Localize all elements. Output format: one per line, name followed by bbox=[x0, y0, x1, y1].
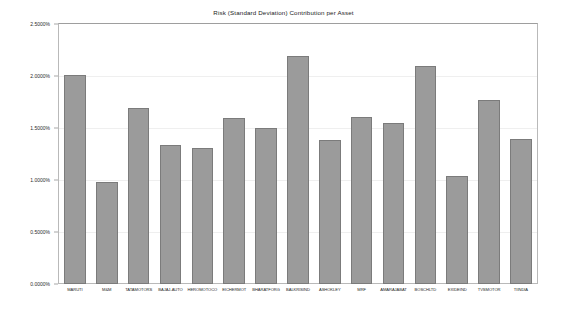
bar-slot bbox=[155, 24, 187, 284]
bar[interactable] bbox=[96, 182, 118, 284]
x-axis: MARUTIM&MTATAMOTORSBAJAJ-AUTOHEROMOTOCOE… bbox=[59, 287, 537, 303]
bar-slot bbox=[505, 24, 537, 284]
bar[interactable] bbox=[415, 66, 437, 284]
bar-slot bbox=[378, 24, 410, 284]
x-axis-tick-label: TIINDIA bbox=[505, 287, 537, 303]
chart-title: Risk (Standard Deviation) Contribution p… bbox=[0, 9, 567, 16]
bar[interactable] bbox=[192, 148, 214, 284]
bar[interactable] bbox=[351, 117, 373, 284]
bar[interactable] bbox=[223, 118, 245, 284]
bar-slot bbox=[473, 24, 505, 284]
bar[interactable] bbox=[160, 145, 182, 284]
bar-slot bbox=[346, 24, 378, 284]
x-axis-tick-label: TVSMOTOR bbox=[473, 287, 505, 303]
bar-slot bbox=[186, 24, 218, 284]
bar[interactable] bbox=[510, 139, 532, 284]
bar-slot bbox=[91, 24, 123, 284]
bar-slot bbox=[250, 24, 282, 284]
bar[interactable] bbox=[128, 108, 150, 284]
y-axis-tick-label: 2.5000% bbox=[30, 21, 50, 27]
bar[interactable] bbox=[64, 75, 86, 284]
bar[interactable] bbox=[319, 140, 341, 284]
x-axis-tick-label: TATAMOTORS bbox=[123, 287, 155, 303]
bar-slot bbox=[282, 24, 314, 284]
x-axis-tick-label: MARUTI bbox=[59, 287, 91, 303]
plot-area bbox=[59, 24, 537, 284]
y-axis-tick-label: 0.0000% bbox=[30, 281, 50, 287]
bar[interactable] bbox=[383, 123, 405, 284]
y-axis-tick-label: 1.0000% bbox=[30, 177, 50, 183]
x-axis-tick-label: AMARAJABAT bbox=[378, 287, 410, 303]
bar-slot bbox=[441, 24, 473, 284]
bar-slot bbox=[59, 24, 91, 284]
bar[interactable] bbox=[287, 56, 309, 284]
chart-container: Risk (Standard Deviation) Contribution p… bbox=[0, 0, 567, 317]
x-axis-tick-label: BOSCHLTD bbox=[409, 287, 441, 303]
bar[interactable] bbox=[478, 100, 500, 284]
y-axis-tick-label: 0.5000% bbox=[30, 229, 50, 235]
bar-slot bbox=[409, 24, 441, 284]
bar[interactable] bbox=[255, 128, 277, 284]
bar-slot bbox=[314, 24, 346, 284]
x-axis-tick-label: M&M bbox=[91, 287, 123, 303]
bar-series bbox=[59, 24, 537, 284]
y-axis-tick-label: 1.5000% bbox=[30, 125, 50, 131]
x-axis-tick-label: BALKRISIND bbox=[282, 287, 314, 303]
x-axis-tick-label: BHARATFORG bbox=[250, 287, 282, 303]
x-axis-tick-label: EICHERMOT bbox=[218, 287, 250, 303]
y-axis: 0.0000%0.5000%1.0000%1.5000%2.0000%2.500… bbox=[0, 0, 58, 317]
bar-slot bbox=[123, 24, 155, 284]
x-axis-tick-label: HEROMOTOCO bbox=[186, 287, 218, 303]
x-axis-tick-label: BAJAJ-AUTO bbox=[155, 287, 187, 303]
x-axis-tick-label: EXIDEIND bbox=[441, 287, 473, 303]
y-axis-tick-label: 2.0000% bbox=[30, 73, 50, 79]
x-axis-tick-label: MRF bbox=[346, 287, 378, 303]
x-axis-tick-label: ASHOKLEY bbox=[314, 287, 346, 303]
bar[interactable] bbox=[446, 176, 468, 284]
bar-slot bbox=[218, 24, 250, 284]
